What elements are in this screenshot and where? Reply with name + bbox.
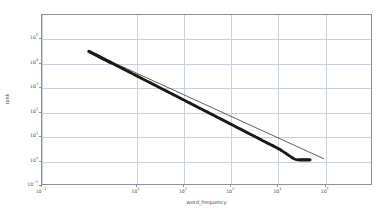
y-axis-title: rank (4, 93, 10, 104)
x-tick-label: 102 (179, 189, 187, 194)
x-tick-label: 10−1 (36, 189, 47, 194)
x-tick-mark (230, 185, 231, 187)
y-tick-label: 101 (0, 134, 41, 139)
x-axis-title: word_frequency (41, 199, 372, 205)
y-tick-mark (39, 161, 41, 162)
y-tick-mark (39, 112, 41, 113)
y-tick-label: 104 (0, 60, 41, 65)
x-tick-label: 104 (273, 189, 281, 194)
scatter-series (87, 50, 311, 162)
data-layer (42, 15, 371, 184)
x-tick-mark (136, 185, 137, 187)
y-tick-label: 100 (0, 158, 41, 163)
y-tick-label: 10−1 (0, 182, 41, 187)
y-tick-label: 103 (0, 85, 41, 90)
x-tick-label: 105 (321, 189, 329, 194)
y-tick-label: 102 (0, 109, 41, 114)
y-tick-mark (39, 87, 41, 88)
x-tick-mark (183, 185, 184, 187)
plot-area (41, 14, 372, 185)
chart-figure: 10−1100101102103104105 10−11011021031041… (0, 0, 391, 218)
x-tick-mark (41, 185, 42, 187)
x-tick-label: 101 (132, 189, 140, 194)
y-tick-mark (39, 63, 41, 64)
x-tick-mark (325, 185, 326, 187)
x-tick-label: 103 (226, 189, 234, 194)
x-tick-mark (277, 185, 278, 187)
fit-line (89, 51, 324, 158)
data-point (308, 158, 311, 161)
y-tick-label: 105 (0, 36, 41, 41)
y-tick-mark (39, 38, 41, 39)
y-tick-mark (39, 136, 41, 137)
